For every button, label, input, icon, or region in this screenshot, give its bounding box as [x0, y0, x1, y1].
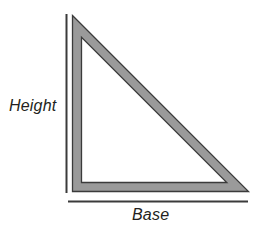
- triangle-diagram: Height Base: [0, 0, 256, 231]
- triangle-figure-svg: [0, 0, 256, 231]
- base-label: Base: [132, 206, 169, 224]
- height-label: Height: [9, 97, 56, 115]
- triangle-band-shape: [73, 16, 249, 192]
- triangle-band: [73, 16, 249, 192]
